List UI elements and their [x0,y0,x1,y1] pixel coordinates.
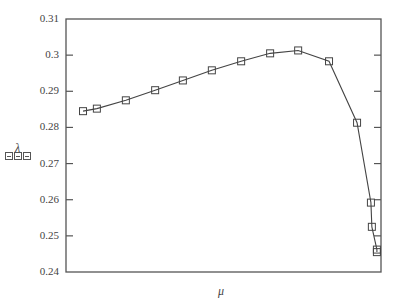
y-tick-label: 0.26 [19,193,59,205]
y-axis-placeholder [5,152,31,160]
y-tick-label: 0.3 [19,48,59,60]
x-axis-label: μ [218,284,224,299]
placeholder-box-icon [5,152,13,160]
chart-canvas [0,0,397,307]
data-line [83,50,377,252]
y-tick-label: 0.31 [19,12,59,24]
y-tick-label: 0.24 [19,265,59,277]
plot-frame [66,19,381,272]
placeholder-box-icon [14,152,22,160]
y-tick-label: 0.29 [19,84,59,96]
placeholder-box-icon [23,152,31,160]
y-tick-label: 0.28 [19,120,59,132]
y-tick-label: 0.25 [19,229,59,241]
